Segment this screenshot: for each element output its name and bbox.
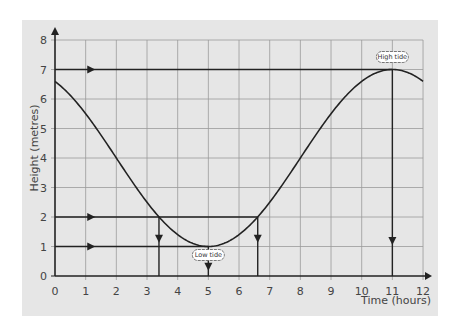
- tide-height-chart: 0123456789101112 012345678 Time (hours) …: [0, 0, 456, 331]
- y-tick-label: 8: [40, 34, 47, 47]
- y-tick-label: 3: [40, 182, 47, 195]
- x-tick-label: 6: [236, 285, 243, 298]
- x-tick-label: 4: [174, 285, 181, 298]
- x-axis-label: Time (hours): [360, 294, 431, 307]
- y-tick-label: 5: [40, 123, 47, 136]
- y-tick-label: 7: [40, 64, 47, 77]
- y-tick-label: 1: [40, 241, 47, 254]
- x-tick-label: 1: [82, 285, 89, 298]
- x-tick-label: 0: [52, 285, 59, 298]
- y-tick-label: 4: [40, 152, 47, 165]
- x-tick-label: 7: [266, 285, 273, 298]
- x-tick-label: 5: [205, 285, 212, 298]
- svg-text:Low tide: Low tide: [195, 251, 222, 259]
- y-tick-label: 2: [40, 211, 47, 224]
- x-tick-label: 2: [113, 285, 120, 298]
- low-tide-label: Low tide: [192, 250, 224, 261]
- x-tick-label: 3: [144, 285, 151, 298]
- x-tick-label: 9: [328, 285, 335, 298]
- y-tick-label: 0: [40, 270, 47, 283]
- high-tide-label: High tide: [376, 52, 408, 63]
- y-axis-label: Height (metres): [28, 104, 41, 191]
- chart-panel: [22, 20, 438, 316]
- y-tick-labels: 012345678: [40, 34, 47, 283]
- x-tick-label: 8: [297, 285, 304, 298]
- y-tick-label: 6: [40, 93, 47, 106]
- svg-text:High tide: High tide: [378, 53, 408, 61]
